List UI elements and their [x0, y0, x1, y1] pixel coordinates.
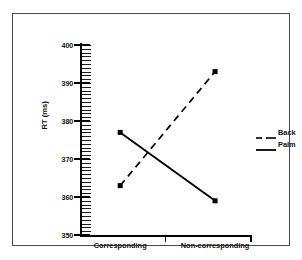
data-point-marker	[118, 183, 123, 188]
legend-swatch-dashed	[256, 128, 276, 136]
legend-entry-palm: Palm	[256, 138, 302, 150]
series-line-back	[120, 72, 215, 186]
figure-border: 400390380370360350 RT (ms) Corresponding…	[12, 13, 290, 246]
legend: Back Palm	[256, 126, 302, 150]
legend-swatch-solid	[256, 140, 276, 148]
data-point-marker	[118, 130, 123, 135]
legend-label-palm: Palm	[276, 140, 296, 149]
legend-label-back: Back	[276, 128, 296, 137]
figure-canvas: 400390380370360350 RT (ms) Corresponding…	[0, 0, 302, 260]
legend-entry-back: Back	[256, 126, 302, 138]
series-line-palm	[120, 132, 215, 200]
data-point-marker	[213, 69, 218, 74]
data-point-marker	[213, 198, 218, 203]
